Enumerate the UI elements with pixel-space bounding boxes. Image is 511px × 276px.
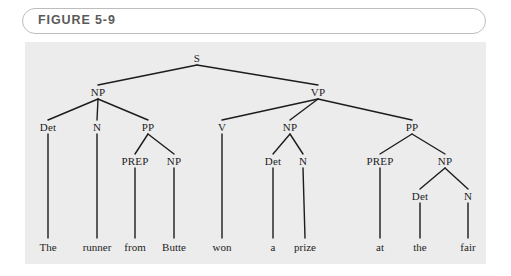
- figure-page: FIGURE 5-9 SNPVPDetNPPVNPPPPREPNPDetNPRE…: [0, 0, 511, 276]
- figure-label: FIGURE 5-9: [38, 13, 116, 27]
- tree-node-n3: N: [464, 190, 472, 202]
- syntax-tree-panel: [25, 42, 486, 264]
- tree-node-vp: VP: [311, 86, 325, 98]
- tree-leaf-w-butte: Butte: [162, 241, 186, 253]
- tree-node-s: S: [194, 52, 200, 64]
- tree-node-pp2: PP: [406, 121, 419, 133]
- tree-node-det2: Det: [265, 155, 281, 167]
- tree-node-v: V: [218, 121, 226, 133]
- tree-node-np2: NP: [283, 121, 297, 133]
- tree-node-n2: N: [299, 155, 307, 167]
- tree-node-prep1: PREP: [121, 155, 148, 167]
- tree-leaf-w-prize: prize: [294, 241, 316, 253]
- tree-node-prep2: PREP: [366, 155, 393, 167]
- tree-leaf-w-at: at: [376, 241, 384, 253]
- tree-node-np1: NP: [91, 86, 105, 98]
- tree-leaf-w-a: a: [271, 241, 276, 253]
- tree-node-n1: N: [93, 121, 101, 133]
- tree-node-pp1: PP: [142, 121, 155, 133]
- tree-node-np3: NP: [167, 155, 181, 167]
- tree-leaf-w-won: won: [213, 241, 232, 253]
- tree-leaf-w-from: from: [124, 241, 145, 253]
- tree-leaf-w-the: The: [39, 241, 56, 253]
- tree-node-det1: Det: [40, 121, 56, 133]
- tree-leaf-w-runner: runner: [83, 241, 112, 253]
- tree-node-det3: Det: [412, 190, 428, 202]
- tree-leaf-w-fair: fair: [460, 241, 475, 253]
- tree-leaf-w-the2: the: [413, 241, 426, 253]
- tree-node-np4: NP: [438, 155, 452, 167]
